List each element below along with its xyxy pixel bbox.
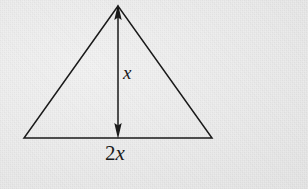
base-label: 2x: [105, 143, 125, 164]
figure-canvas: x 2x: [0, 0, 308, 189]
base-label-variable: x: [116, 141, 125, 165]
height-label: x: [123, 63, 131, 82]
triangle-diagram: [0, 0, 308, 189]
height-label-variable: x: [123, 62, 131, 83]
base-label-number: 2: [105, 141, 116, 165]
